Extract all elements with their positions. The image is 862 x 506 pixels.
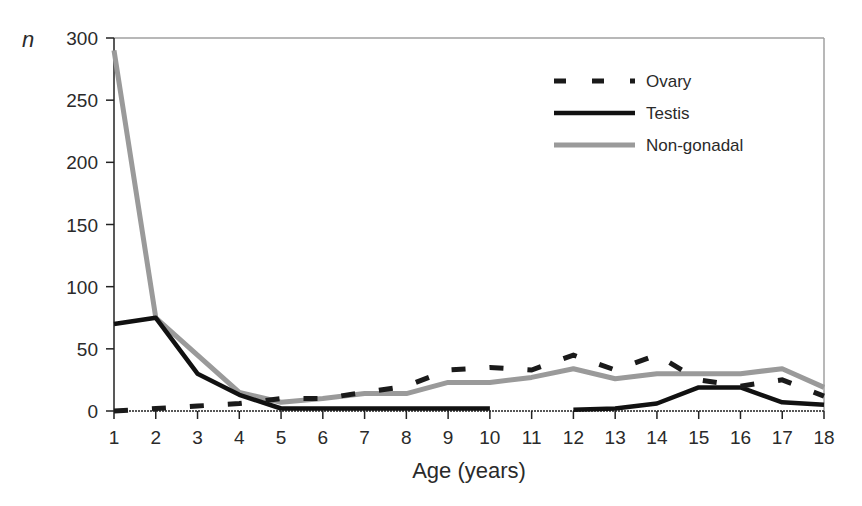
x-tick-label: 8 — [401, 427, 412, 448]
x-tick-label: 1 — [109, 427, 120, 448]
legend-label-testis: Testis — [646, 104, 689, 123]
y-tick-label: 150 — [66, 215, 98, 236]
y-tick-label: 300 — [66, 28, 98, 49]
x-tick-label: 4 — [234, 427, 245, 448]
x-tick-label: 16 — [730, 427, 751, 448]
series-non-gonadal-line — [114, 50, 824, 402]
x-tick-label: 14 — [646, 427, 668, 448]
x-axis-label: Age (years) — [412, 458, 526, 483]
plot-frame — [114, 38, 824, 411]
y-tick-label: 0 — [87, 401, 98, 422]
x-tick-label: 15 — [688, 427, 709, 448]
x-tick-label: 13 — [605, 427, 626, 448]
y-tick-label: 250 — [66, 90, 98, 111]
y-tick-label: 200 — [66, 152, 98, 173]
y-tick-label: 50 — [77, 339, 98, 360]
legend-label-ovary: Ovary — [646, 72, 692, 91]
x-tick-label: 11 — [522, 427, 542, 448]
x-tick-label: 12 — [563, 427, 584, 448]
x-tick-label: 2 — [150, 427, 161, 448]
x-tick-label: 6 — [318, 427, 329, 448]
y-axis-label: n — [22, 27, 34, 52]
line-chart: 050100150200250300 123456789101112131415… — [0, 0, 862, 506]
legend-label-non-gonadal: Non-gonadal — [646, 136, 743, 155]
x-tick-label: 7 — [359, 427, 370, 448]
legend: OvaryTestisNon-gonadal — [554, 72, 743, 155]
x-tick-label: 18 — [813, 427, 834, 448]
x-axis: 123456789101112131415161718 — [109, 411, 835, 448]
x-tick-label: 10 — [479, 427, 500, 448]
x-tick-label: 17 — [772, 427, 793, 448]
series-lines — [114, 50, 824, 411]
x-tick-label: 5 — [276, 427, 287, 448]
y-axis: 050100150200250300 — [66, 28, 114, 422]
y-tick-label: 100 — [66, 277, 98, 298]
x-tick-label: 9 — [443, 427, 454, 448]
x-tick-label: 3 — [192, 427, 203, 448]
series-testis-line — [573, 387, 824, 409]
